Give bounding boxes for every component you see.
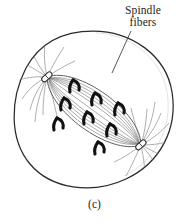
mitosis-figure-panel-c: Spindle fibers (c) <box>0 0 189 224</box>
cell-diagram <box>0 0 189 224</box>
spindle-fibers-label-line2: fibers <box>112 17 174 29</box>
spindle-fibers-label-line1: Spindle <box>112 5 174 17</box>
spindle-fibers-label: Spindle fibers <box>112 5 174 28</box>
panel-caption: (c) <box>0 199 189 211</box>
